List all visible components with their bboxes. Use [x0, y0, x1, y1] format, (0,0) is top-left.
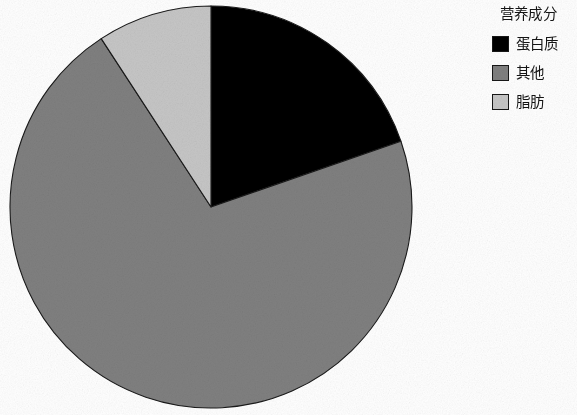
legend-item-label: 脂肪	[516, 94, 544, 110]
legend-swatch-fat	[492, 94, 509, 110]
legend-item-0[interactable]: 蛋白质	[492, 29, 577, 58]
legend-item-2[interactable]: 脂肪	[492, 87, 577, 116]
pie-plot-area: 蛋白质 19.7%其他 71.1%脂肪 9.2%	[0, 0, 430, 415]
legend: 营养成分 蛋白质其他脂肪	[492, 6, 577, 116]
pie-chart-figure: 蛋白质 19.7%其他 71.1%脂肪 9.2% 营养成分 蛋白质其他脂肪	[0, 0, 577, 415]
legend-swatch-other	[492, 65, 509, 81]
legend-item-list: 蛋白质其他脂肪	[492, 29, 577, 116]
legend-title: 营养成分	[500, 6, 577, 23]
pie-svg: 蛋白质 19.7%其他 71.1%脂肪 9.2%	[0, 0, 430, 415]
legend-swatch-protein	[492, 36, 509, 52]
legend-item-label: 蛋白质	[516, 36, 558, 52]
legend-item-1[interactable]: 其他	[492, 58, 577, 87]
pie-slice-group: 蛋白质 19.7%其他 71.1%脂肪 9.2%	[10, 6, 412, 408]
legend-item-label: 其他	[516, 65, 544, 81]
